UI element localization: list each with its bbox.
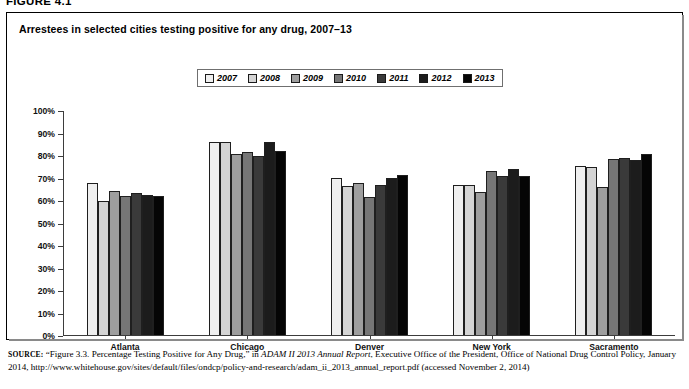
figure-number: FIGURE 4.1 [6,0,72,7]
bar-sacramento-2011[interactable] [619,158,630,335]
bar-chicago-2007[interactable] [209,142,220,335]
bar-atlanta-2013[interactable] [153,196,164,335]
source-report-title: ADAM II 2013 Annual Report [261,349,370,359]
source-text-part-1: “Figure 3.3. Percentage Testing Positive… [46,349,261,359]
y-axis-tick-mark [58,134,63,135]
y-axis-tick-mark [58,156,63,157]
bar-group-bars [87,111,164,335]
bar-atlanta-2008[interactable] [98,201,109,335]
bar-sacramento-2013[interactable] [641,154,652,335]
bar-chicago-2012[interactable] [264,142,275,335]
bar-atlanta-2010[interactable] [120,196,131,335]
bar-group-bars [453,111,530,335]
legend-label: 2009 [303,73,323,83]
bar-groups: AtlantaChicagoDenverNew YorkSacramento [64,111,675,335]
bar-atlanta-2009[interactable] [109,191,120,335]
bar-group-bars [209,111,286,335]
bar-new-york-2009[interactable] [475,192,486,335]
y-axis-tick-mark [58,314,63,315]
bar-denver-2013[interactable] [397,175,408,335]
bar-group-bars [331,111,408,335]
bar-new-york-2013[interactable] [519,176,530,335]
y-axis-tick-mark [58,291,63,292]
y-axis-tick-label: 50% [38,219,55,229]
legend-item: 2013 [463,73,495,83]
bar-group: New York [431,111,553,335]
bar-sacramento-2007[interactable] [575,166,586,335]
bar-chicago-2011[interactable] [253,156,264,335]
y-axis-tick-label: 20% [38,286,55,296]
chart-legend: 2007200820092010201120122013 [197,69,503,87]
legend-label: 2011 [389,73,408,83]
y-axis-tick-label: 40% [38,241,55,251]
legend-item: 2007 [205,73,237,83]
bar-atlanta-2012[interactable] [142,195,153,335]
bar-group-bars [575,111,652,335]
legend-swatch-icon [291,74,300,83]
bar-atlanta-2007[interactable] [87,183,98,335]
bar-new-york-2010[interactable] [486,171,497,335]
legend-swatch-icon [463,74,472,83]
y-axis-tick-mark [58,246,63,247]
legend-item: 2008 [248,73,280,83]
x-axis-tick-mark [247,335,248,340]
bar-denver-2007[interactable] [331,178,342,335]
legend-label: 2008 [260,73,280,83]
bar-group: Atlanta [64,111,186,335]
legend-label: 2010 [346,73,366,83]
y-axis-tick-label: 30% [38,264,55,274]
x-axis-tick-mark [492,335,493,340]
y-axis-tick-mark [58,224,63,225]
bar-group: Chicago [186,111,308,335]
bar-atlanta-2011[interactable] [131,193,142,335]
bar-denver-2011[interactable] [375,185,386,335]
x-axis-tick-mark [125,335,126,340]
y-axis-tick-label: 60% [38,196,55,206]
y-axis-tick-mark [58,336,63,337]
legend-swatch-icon [377,74,386,83]
bar-sacramento-2008[interactable] [586,167,597,335]
legend-swatch-icon [248,74,257,83]
bar-new-york-2008[interactable] [464,185,475,335]
bar-chicago-2008[interactable] [220,142,231,335]
bar-chicago-2013[interactable] [275,151,286,335]
x-axis-tick-mark [614,335,615,340]
legend-item: 2012 [419,73,451,83]
y-axis-tick-label: 0% [43,331,55,341]
chart-title: Arrestees in selected cities testing pos… [19,23,352,35]
y-axis-tick-mark [58,111,63,112]
y-axis-tick-mark [58,179,63,180]
legend-swatch-icon [205,74,214,83]
legend-swatch-icon [419,74,428,83]
legend-label: 2012 [431,73,451,83]
y-axis-tick-label: 100% [33,106,55,116]
legend-label: 2013 [475,73,495,83]
legend-swatch-icon [334,74,343,83]
y-axis-tick-label: 70% [38,174,55,184]
y-axis-tick-label: 90% [38,129,55,139]
y-axis-tick-mark [58,201,63,202]
bar-chicago-2009[interactable] [231,154,242,335]
legend-label: 2007 [217,73,237,83]
bar-sacramento-2009[interactable] [597,187,608,335]
bar-sacramento-2010[interactable] [608,159,619,335]
bar-denver-2009[interactable] [353,183,364,335]
bar-denver-2008[interactable] [342,186,353,335]
bar-sacramento-2012[interactable] [630,160,641,335]
source-note: SOURCE: “Figure 3.3. Percentage Testing … [8,348,680,373]
bar-chicago-2010[interactable] [242,152,253,335]
bar-denver-2012[interactable] [386,178,397,335]
bar-new-york-2007[interactable] [453,185,464,335]
bar-denver-2010[interactable] [364,197,375,335]
y-axis-tick-label: 10% [38,309,55,319]
legend-item: 2011 [377,73,408,83]
chart-plot-area: 100%90%80%70%60%50%40%30%20%10%0% Atlant… [63,111,675,336]
bar-new-york-2012[interactable] [508,169,519,335]
y-axis-tick-label: 80% [38,151,55,161]
bar-new-york-2011[interactable] [497,176,508,335]
y-axis-tick-mark [58,269,63,270]
legend-item: 2009 [291,73,323,83]
figure-panel: Arrestees in selected cities testing pos… [6,12,683,340]
x-axis-tick-mark [370,335,371,340]
legend-item: 2010 [334,73,366,83]
